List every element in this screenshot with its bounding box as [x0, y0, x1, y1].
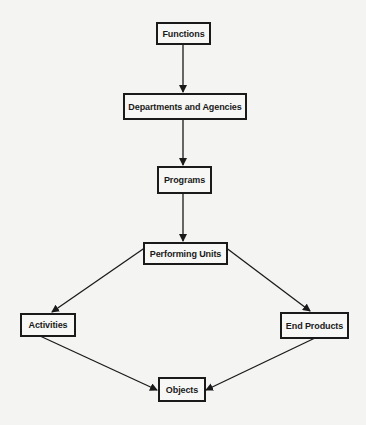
node-activities: Activities [20, 313, 76, 337]
node-label: Performing Units [150, 249, 221, 259]
node-label: Departments and Agencies [128, 102, 241, 112]
edge-performing-units-activities [52, 247, 146, 312]
node-label: Activities [28, 320, 67, 330]
edge-activities-objects [40, 336, 157, 390]
node-objects: Objects [158, 377, 206, 402]
node-performing-units: Performing Units [143, 242, 228, 265]
node-functions: Functions [156, 22, 211, 45]
node-label: Programs [164, 175, 205, 185]
node-label: Functions [162, 29, 204, 39]
node-programs: Programs [157, 166, 212, 194]
edge-end-products-objects [206, 338, 315, 390]
edge-performing-units-end-products [225, 247, 310, 311]
node-label: End Products [286, 321, 343, 331]
node-departments-and-agencies: Departments and Agencies [123, 93, 247, 120]
connector-layer [0, 0, 366, 425]
node-label: Objects [166, 385, 198, 395]
node-end-products: End Products [280, 312, 349, 339]
